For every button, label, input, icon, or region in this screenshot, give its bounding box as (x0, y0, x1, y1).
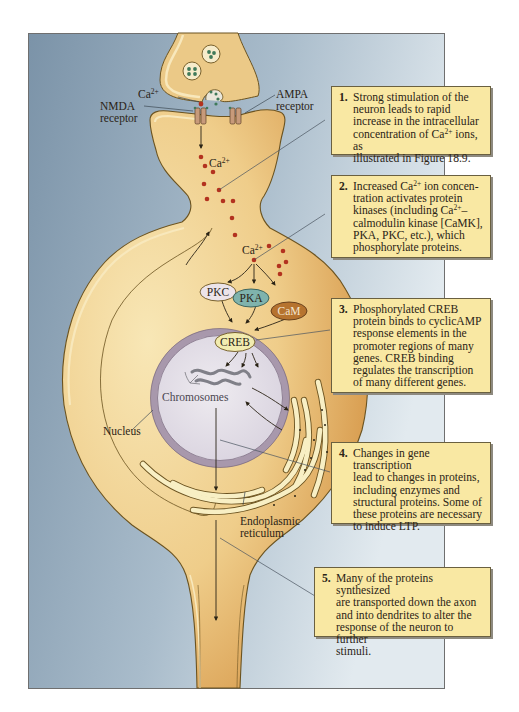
callout-step-2: 2. Increased Ca2+ ion concen- tration ac… (331, 175, 491, 258)
endoplasmic-reticulum-label: Endoplasmicreticulum (240, 515, 300, 539)
ampa-receptor (229, 107, 241, 124)
nmda-receptor (194, 107, 209, 124)
pkc-label: PKC (200, 284, 236, 300)
calcium-label-presynaptic: Ca2+ (138, 88, 159, 100)
cam-label: CaM (271, 303, 307, 319)
callout-step-1: 1. Strong stimulation of the neuron lead… (331, 86, 491, 155)
calcium-ion (199, 102, 204, 107)
glutamate-dot (214, 102, 217, 105)
callout-step-5: 5. Many of the proteins synthesized are … (314, 567, 491, 637)
chromosomes-label: Chromosomes (162, 391, 228, 403)
pka-label: PKA (233, 290, 269, 306)
ampa-receptor-label: AMPAreceptor (276, 88, 314, 112)
synaptic-vesicle (183, 62, 201, 80)
synaptic-vesicle (202, 45, 220, 63)
ltp-gene-expression-figure: Ca2+ NMDAreceptor AMPAreceptor Ca2+ Ca2+… (0, 0, 519, 712)
nmda-receptor-label: NMDAreceptor (100, 100, 138, 124)
calcium-label-soma: Ca2+ (242, 244, 263, 256)
callout-step-4: 4. Changes in gene transcription lead to… (331, 442, 491, 524)
callout-step-3: 3. Phosphorylated CREB protein binds to … (331, 298, 491, 393)
calcium-label-spine: Ca2+ (209, 157, 230, 169)
creb-label: CREB (215, 334, 255, 350)
nucleus-label: Nucleus (103, 425, 141, 437)
